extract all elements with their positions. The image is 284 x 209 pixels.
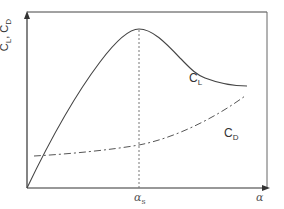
y-label-sub-d: D [4, 19, 13, 25]
cd-label-c: C [224, 126, 233, 140]
cl-label-c: C [189, 71, 198, 85]
x-axis-label: α [256, 192, 263, 203]
chart-canvas [0, 0, 284, 209]
cd-label-sub: D [233, 133, 239, 142]
y-label-sep: , C [0, 25, 10, 39]
alpha-s-sub: s [141, 197, 145, 206]
stall-angle-tick-label: αs [134, 192, 146, 206]
y-axis-label: CL, CD [0, 19, 13, 51]
cd-curve-label: CD [224, 127, 238, 142]
alpha-symbol: α [256, 191, 263, 204]
cl-label-sub: L [198, 78, 202, 87]
cl-curve-label: CL [189, 72, 202, 87]
y-label-c1: C [0, 43, 10, 51]
y-label-sub-l: L [4, 39, 13, 43]
cl-curve [27, 29, 247, 188]
